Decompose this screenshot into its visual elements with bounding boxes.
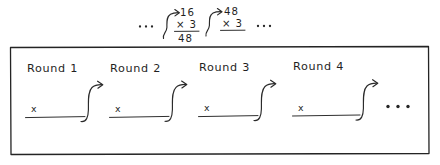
top-step-1-operand: 16 [180,7,195,18]
round-slot-2-value: x [115,103,121,114]
round-slot-1-rule [26,117,86,118]
round-slot-3-rule [199,116,259,117]
top-leading-ellipsis [139,25,153,27]
figure-root: 16 × 3 48 48 × 3 Round 1 x Round [0,0,440,165]
round-label-1: Round 1 [27,62,78,75]
round-4-connector-icon [356,80,378,120]
round-3-connector-icon [254,80,276,120]
round-slot-2-rule [110,116,170,117]
round-slot-3-value: x [204,102,210,113]
top-step-2-operand: 48 [224,6,239,17]
figure-canvas: 16 × 3 48 48 × 3 Round 1 x Round [0,0,440,165]
top-step-2-multiplier: × 3 [222,18,243,29]
round-2-connector-icon [165,81,187,121]
rounds-trailing-ellipsis [386,105,409,108]
round-slot-4-value: x [298,102,304,113]
round-slot-4-rule [293,115,361,116]
round-label-3: Round 3 [199,61,250,74]
top-trailing-ellipsis [257,25,271,27]
round-label-4: Round 4 [293,60,344,73]
round-slot-1-value: x [31,103,37,114]
round-label-2: Round 2 [110,62,161,75]
top-step-2-connector-icon [206,9,222,36]
round-1-connector-icon [81,81,103,121]
top-step-1-result: 48 [178,33,193,44]
top-step-1-multiplier: × 3 [176,19,197,30]
